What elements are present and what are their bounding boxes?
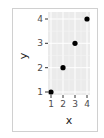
y-axis-title: y xyxy=(17,52,30,59)
y-tick-label: 4 xyxy=(37,14,43,24)
x-tick-label: 4 xyxy=(84,99,90,109)
y-tick-label: 3 xyxy=(37,38,43,48)
x-tick-label: 1 xyxy=(48,99,54,109)
x-tick-label: 2 xyxy=(60,99,66,109)
data-point xyxy=(48,89,53,94)
x-axis-title: x xyxy=(66,114,73,127)
data-point xyxy=(84,16,89,21)
scatter-chart: 1 2 3 4 1 2 3 4 x y xyxy=(0,0,104,138)
data-point xyxy=(60,65,65,70)
x-tick-label: 3 xyxy=(72,99,78,109)
y-tick-label: 2 xyxy=(37,63,43,73)
data-point xyxy=(72,41,77,46)
y-tick-label: 1 xyxy=(37,87,43,97)
